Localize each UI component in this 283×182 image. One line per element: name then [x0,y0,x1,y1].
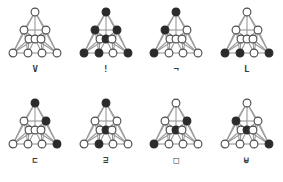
figure-cell[interactable]: ⊌ [212,91,283,182]
graph-node-open[interactable] [250,49,258,57]
triangular-graph [4,96,66,154]
graph-node-open[interactable] [165,140,173,148]
triangular-graph [216,5,278,63]
graph-node-filled[interactable] [102,99,110,107]
figure-sheet: V!¬L⊏⊒□⊌ [0,0,282,182]
graph-node-open[interactable] [178,126,186,134]
graph-node-open[interactable] [236,140,244,148]
graph-node-open[interactable] [80,140,88,148]
graph-node-open[interactable] [243,99,251,107]
triangular-graph [145,96,207,154]
figure-cell[interactable]: □ [141,91,212,182]
graph-node-open[interactable] [243,8,251,16]
graph-node-open[interactable] [24,140,32,148]
graph-node-filled[interactable] [221,49,229,57]
graph-node-open[interactable] [37,126,45,134]
triangular-graph [145,5,207,63]
graph-node-open[interactable] [91,117,99,125]
figure-label: ⊌ [243,155,250,166]
graph-node-filled[interactable] [150,140,158,148]
graph-node-open[interactable] [232,26,240,34]
figure-cell[interactable]: ¬ [141,0,212,91]
graph-node-open[interactable] [109,49,117,57]
graph-node-filled[interactable] [91,26,99,34]
graph-node-open[interactable] [249,126,257,134]
graph-node-filled[interactable] [150,49,158,57]
figure-label: □ [174,155,179,166]
figure-label: L [244,64,249,75]
figure-cell[interactable]: V [0,0,71,91]
graph-node-open[interactable] [124,140,132,148]
figure-grid: V!¬L⊏⊒□⊌ [0,0,282,182]
graph-node-open[interactable] [37,35,45,43]
figure-cell[interactable]: ⊏ [0,91,71,182]
graph-node-open[interactable] [38,49,46,57]
graph-node-open[interactable] [20,26,28,34]
graph-node-filled[interactable] [161,26,169,34]
graph-node-open[interactable] [113,117,121,125]
graph-node-filled[interactable] [95,49,103,57]
graph-node-filled[interactable] [124,49,132,57]
graph-node-open[interactable] [42,26,50,34]
figure-label: ⊒ [103,155,108,166]
graph-node-open[interactable] [172,99,180,107]
graph-node-open[interactable] [254,26,262,34]
graph-node-filled[interactable] [31,99,39,107]
graph-node-open[interactable] [9,140,17,148]
graph-node-filled[interactable] [236,49,244,57]
graph-node-open[interactable] [194,140,202,148]
graph-node-open[interactable] [179,49,187,57]
figure-label: ! [103,64,108,75]
triangular-graph [75,5,137,63]
figure-label: ⊏ [33,155,38,166]
graph-node-open[interactable] [194,49,202,57]
graph-node-open[interactable] [108,35,116,43]
graph-node-filled[interactable] [265,140,273,148]
triangular-graph [4,5,66,63]
graph-node-open[interactable] [250,140,258,148]
triangular-graph [75,96,137,154]
graph-node-filled[interactable] [102,8,110,16]
graph-node-open[interactable] [108,126,116,134]
figure-cell[interactable]: ⊒ [71,91,142,182]
graph-node-open[interactable] [24,49,32,57]
graph-node-open[interactable] [20,117,28,125]
graph-node-open[interactable] [109,140,117,148]
graph-node-filled[interactable] [80,49,88,57]
graph-node-filled[interactable] [113,26,121,34]
graph-node-open[interactable] [9,49,17,57]
triangular-graph [216,96,278,154]
graph-node-filled[interactable] [95,140,103,148]
graph-node-filled[interactable] [183,117,191,125]
graph-node-open[interactable] [221,140,229,148]
graph-node-open[interactable] [165,49,173,57]
graph-node-open[interactable] [183,26,191,34]
graph-node-open[interactable] [254,117,262,125]
graph-node-open[interactable] [161,117,169,125]
figure-label: ¬ [174,64,179,75]
graph-node-filled[interactable] [265,49,273,57]
graph-node-filled[interactable] [53,140,61,148]
graph-node-open[interactable] [249,35,257,43]
graph-node-filled[interactable] [232,117,240,125]
graph-node-open[interactable] [31,8,39,16]
graph-node-filled[interactable] [42,117,50,125]
figure-cell[interactable]: ! [71,0,142,91]
graph-node-filled[interactable] [172,8,180,16]
graph-node-open[interactable] [179,140,187,148]
figure-cell[interactable]: L [212,0,283,91]
figure-label: V [33,64,38,75]
graph-node-open[interactable] [53,49,61,57]
graph-node-open[interactable] [38,140,46,148]
graph-node-open[interactable] [178,35,186,43]
